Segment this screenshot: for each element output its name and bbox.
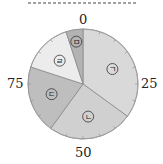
svg-text:ㄴ: ㄴ [85,113,92,122]
tick-label-25: 25 [141,77,158,90]
svg-text:ㄹ: ㄹ [56,57,63,66]
svg-text:ㅁ: ㅁ [73,38,80,47]
svg-text:ㄷ: ㄷ [48,90,55,99]
tick-label-0: 0 [79,13,87,26]
tick-label-75: 75 [7,77,24,90]
svg-text:ㄱ: ㄱ [109,65,116,74]
tick-label-50: 50 [75,146,92,159]
